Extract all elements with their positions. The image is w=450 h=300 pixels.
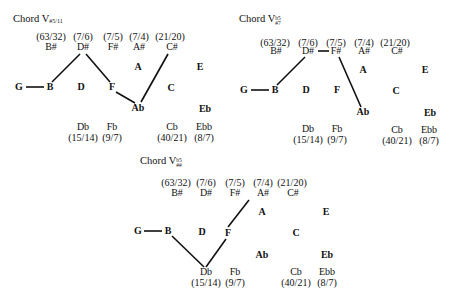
note-label: D xyxy=(198,227,205,237)
note-label: C# xyxy=(391,46,403,56)
ratio-label: (40/21) xyxy=(157,133,186,143)
chord-title: Chord V#5/11 xyxy=(13,13,63,24)
note-label: G xyxy=(240,85,248,95)
note-label: A# xyxy=(133,42,145,52)
note-label: Fb xyxy=(332,124,343,134)
note-label: C# xyxy=(166,42,178,52)
note-label: C xyxy=(292,228,299,238)
note-label: B xyxy=(47,82,54,92)
note-label: Eb xyxy=(199,104,211,114)
note-label: F# xyxy=(108,42,119,52)
note-label: C xyxy=(167,83,174,93)
note-label: Fb xyxy=(230,267,241,277)
note-label: F xyxy=(225,228,231,238)
note-label: Eb xyxy=(321,250,333,260)
note-label: C# xyxy=(287,188,299,198)
ratio-label: (40/21) xyxy=(281,278,310,288)
note-label: C xyxy=(392,86,399,96)
note-label: E xyxy=(323,207,330,217)
ratio-label: (9/7) xyxy=(327,135,346,145)
note-label: E xyxy=(197,62,204,72)
note-label: Db xyxy=(200,267,212,277)
note-label: Eb xyxy=(424,108,436,118)
note-label: Ebb xyxy=(319,267,335,277)
chord-title: Chord Vb5#7 xyxy=(239,13,281,26)
ratio-label: (8/7) xyxy=(419,136,438,146)
note-label: G xyxy=(15,82,23,92)
note-label: D xyxy=(302,85,309,95)
note-label: D# xyxy=(302,46,314,56)
note-label: D# xyxy=(200,188,212,198)
note-label: B# xyxy=(270,46,282,56)
note-label: Db xyxy=(302,124,314,134)
note-label: Ab xyxy=(357,107,370,117)
note-label: F# xyxy=(331,46,342,56)
note-label: Cb xyxy=(391,125,403,135)
note-label: B xyxy=(165,226,172,236)
note-label: Cb xyxy=(290,267,302,277)
chord-title: Chord Vb5## xyxy=(140,155,182,168)
ratio-label: (8/7) xyxy=(317,278,336,288)
note-label: F xyxy=(334,85,340,95)
note-label: A# xyxy=(257,188,269,198)
note-label: D# xyxy=(77,42,89,52)
note-label: A# xyxy=(358,46,370,56)
note-label: F xyxy=(109,82,115,92)
chord-diagram-3: Chord Vb5## (63/32) (7/6) (7/5) (7/4) (2… xyxy=(120,145,345,295)
note-label: Ebb xyxy=(196,122,212,132)
note-label: Fb xyxy=(107,122,118,132)
ratio-label: (15/14) xyxy=(191,278,220,288)
note-label: A xyxy=(258,207,265,217)
ratio-label: (15/14) xyxy=(68,133,97,143)
note-label: A xyxy=(134,62,141,72)
chord-diagram-2: Chord Vb5#7 (63/32) (7/6) (7/5) (7/4) (2… xyxy=(225,3,450,153)
ratio-label: (40/21) xyxy=(382,136,411,146)
note-label: A xyxy=(359,65,366,75)
ratio-label: (15/14) xyxy=(293,135,322,145)
note-label: D xyxy=(77,82,84,92)
note-label: Ab xyxy=(132,103,145,113)
note-label: B xyxy=(272,85,279,95)
note-label: G xyxy=(134,226,142,236)
note-label: Ab xyxy=(256,250,269,260)
note-label: Db xyxy=(77,122,89,132)
ratio-label: (9/7) xyxy=(225,278,244,288)
chord-diagram-1: Chord V#5/11 (63/32) (7/6) (7/5) (7/4) (… xyxy=(0,0,225,150)
note-label: B# xyxy=(171,188,183,198)
ratio-label: (9/7) xyxy=(102,133,121,143)
ratio-label: (8/7) xyxy=(194,133,213,143)
note-label: B# xyxy=(45,42,57,52)
note-label: Ebb xyxy=(421,125,437,135)
note-label: F# xyxy=(230,188,241,198)
note-label: Cb xyxy=(166,122,178,132)
note-label: E xyxy=(422,65,429,75)
